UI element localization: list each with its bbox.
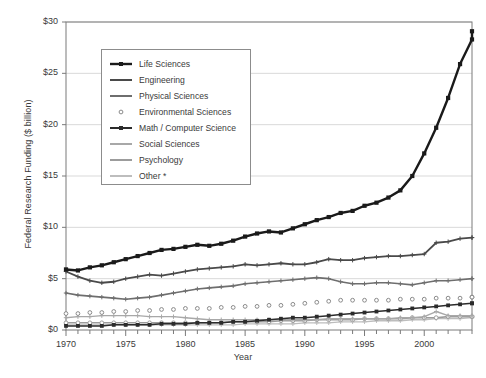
data-point [339, 313, 343, 317]
legend-swatch-life-sciences [108, 57, 134, 71]
data-point [434, 316, 438, 320]
data-point [195, 307, 199, 311]
data-point [243, 234, 247, 238]
data-point [207, 321, 211, 325]
data-point [470, 295, 474, 299]
data-point [88, 324, 92, 328]
data-point [136, 254, 140, 258]
data-point [315, 218, 319, 222]
legend-item-social-sciences: Social Sciences [108, 136, 250, 152]
data-point [255, 304, 259, 308]
legend-swatch-other [108, 169, 134, 183]
x-tick-label: 1985 [225, 339, 265, 349]
data-point [327, 215, 331, 219]
data-point [351, 312, 355, 316]
legend-swatch-social-sciences [108, 137, 134, 151]
data-point [279, 230, 283, 234]
legend-label-math-computer-science: Math / Computer Science [139, 124, 236, 133]
legend-item-life-sciences: Life Sciences [108, 56, 250, 72]
legend-marker [119, 126, 123, 130]
x-tick-label: 1970 [46, 339, 86, 349]
data-point [291, 302, 295, 306]
data-point [303, 301, 307, 305]
legend-swatch-math-computer-science [108, 121, 134, 135]
legend-item-other: Other * [108, 168, 250, 184]
data-point [184, 307, 188, 311]
data-point [207, 244, 211, 248]
legend-item-math-computer-science: Math / Computer Science [108, 120, 250, 136]
y-tick-label: $0 [24, 324, 58, 334]
data-point [219, 242, 223, 246]
data-point [231, 239, 235, 243]
data-point [422, 151, 426, 155]
data-point [470, 37, 474, 41]
data-point [422, 306, 426, 310]
data-point [88, 311, 92, 315]
chart-legend: Life Sciences Engineering Physical Scien… [101, 49, 251, 185]
data-point [159, 248, 163, 252]
legend-label-psychology: Psychology [139, 156, 183, 165]
data-point [470, 29, 474, 33]
data-point [171, 247, 175, 251]
legend-label-other: Other * [139, 172, 166, 181]
legend-label-physical-sciences: Physical Sciences [139, 92, 208, 101]
data-point [374, 201, 378, 205]
y-tick-label: $5 [24, 273, 58, 283]
legend-item-psychology: Psychology [108, 152, 250, 168]
data-point [327, 314, 331, 318]
data-point [112, 310, 116, 314]
data-point [88, 265, 92, 269]
data-point [434, 304, 438, 308]
data-point [363, 311, 367, 315]
legend-item-engineering: Engineering [108, 72, 250, 88]
data-point [100, 311, 104, 315]
data-point [410, 174, 414, 178]
x-tick-label: 1990 [285, 339, 325, 349]
data-point [64, 324, 68, 328]
data-point [172, 322, 176, 326]
legend-swatch-environmental-sciences [108, 105, 134, 119]
data-point [386, 195, 390, 199]
data-point [315, 300, 319, 304]
data-point [219, 321, 223, 325]
data-point [207, 307, 211, 311]
data-point [446, 296, 450, 300]
data-point [267, 318, 271, 322]
data-point [339, 298, 343, 302]
data-point [410, 297, 414, 301]
legend-item-environmental-sciences: Environmental Sciences [108, 104, 250, 120]
data-point [76, 324, 80, 328]
data-point [303, 316, 307, 320]
data-point [279, 303, 283, 307]
data-point [291, 226, 295, 230]
y-tick-label: $25 [24, 67, 58, 77]
data-point [458, 296, 462, 300]
data-point [363, 298, 367, 302]
data-point [148, 323, 152, 327]
data-point [231, 320, 235, 324]
data-point [375, 310, 379, 314]
x-tick-label: 2000 [404, 339, 444, 349]
data-point [100, 263, 104, 267]
y-tick-label: $15 [24, 170, 58, 180]
data-point [124, 257, 128, 261]
data-point [410, 307, 414, 311]
data-point [398, 188, 402, 192]
data-point [350, 209, 354, 213]
legend-marker [119, 62, 123, 66]
legend-item-physical-sciences: Physical Sciences [108, 88, 250, 104]
data-point [315, 315, 319, 319]
data-point [243, 320, 247, 324]
data-point [434, 126, 438, 130]
data-point [339, 211, 343, 215]
x-tick-label: 1995 [345, 339, 385, 349]
data-point [64, 267, 68, 271]
legend-label-social-sciences: Social Sciences [139, 140, 200, 149]
data-point [434, 296, 438, 300]
legend-marker [119, 110, 123, 114]
y-tick-label: $20 [24, 119, 58, 129]
data-point [470, 301, 474, 305]
data-point [398, 297, 402, 301]
data-point [398, 308, 402, 312]
data-point [458, 62, 462, 66]
